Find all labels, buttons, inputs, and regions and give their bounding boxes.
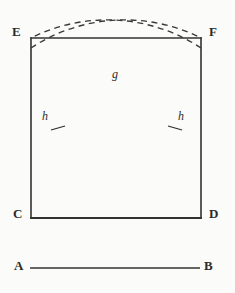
arc-tick-marks [51, 126, 182, 130]
arc-c-to-f [31, 20, 201, 48]
tick-mark-right [168, 126, 182, 130]
geometry-figure: E F C D A B g h h [0, 0, 235, 293]
vertex-label-e: E [12, 25, 21, 38]
construction-arcs [31, 20, 201, 48]
arc-d-to-e [31, 20, 201, 48]
tick-mark-left [51, 126, 65, 130]
vertex-label-d: D [209, 207, 218, 220]
point-label-h-left: h [42, 110, 48, 122]
vertex-label-b: B [204, 259, 213, 272]
vertex-label-a: A [14, 259, 23, 272]
vertex-label-f: F [209, 25, 217, 38]
point-label-g: g [112, 68, 118, 80]
figure-canvas [0, 0, 235, 293]
vertex-label-c: C [13, 207, 22, 220]
point-label-h-right: h [178, 110, 184, 122]
